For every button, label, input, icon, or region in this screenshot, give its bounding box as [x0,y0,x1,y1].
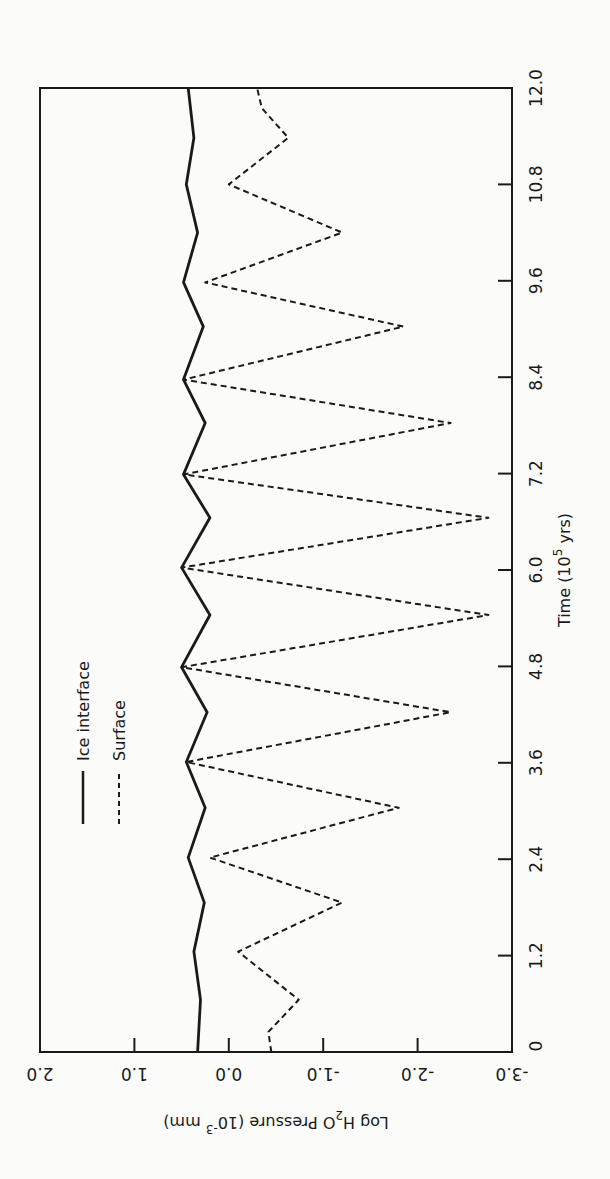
x-tick-label: 9.6 [526,267,546,294]
surface-line [182,88,489,1052]
legend: Ice interface Surface [74,661,129,824]
series-lines [182,88,489,1052]
y-tick-label: -3.0 [495,1064,528,1084]
x-tick-label: 7.2 [526,460,546,487]
x-axis-title: Time (105 yrs) [551,513,574,628]
x-tick-label: 12.0 [526,69,546,107]
x-axis-ticks: 01.22.43.64.86.07.28.49.610.812.0 [498,69,546,1051]
x-tick-label: 8.4 [526,364,546,391]
y-tick-label: 0.0 [215,1064,242,1084]
legend-label-ice-interface: Ice interface [74,661,93,761]
y-axis-ticks: -3.0-2.0-1.00.01.02.0 [26,1038,528,1084]
plot-frame [40,88,512,1052]
y-tick-label: 1.0 [121,1064,148,1084]
x-tick-label: 3.6 [526,749,546,776]
y-tick-label: -2.0 [401,1064,434,1084]
x-tick-label: 1.2 [526,942,546,969]
legend-label-surface: Surface [110,700,129,761]
y-axis-title: Log H2O Pressure (10-3 mm) [163,1108,389,1136]
rotated-chart-container: 01.22.43.64.86.07.28.49.610.812.0 -3.0-2… [0,0,610,1179]
ice-interface-line [182,88,210,1052]
x-tick-label: 2.4 [526,846,546,873]
x-tick-label: 4.8 [526,653,546,680]
pressure-time-chart: 01.22.43.64.86.07.28.49.610.812.0 -3.0-2… [0,0,610,1179]
y-tick-label: 2.0 [26,1064,53,1084]
x-tick-label: 6.0 [526,556,546,583]
x-tick-label: 0 [526,1041,546,1052]
y-tick-label: -1.0 [307,1064,340,1084]
x-tick-label: 10.8 [526,165,546,203]
